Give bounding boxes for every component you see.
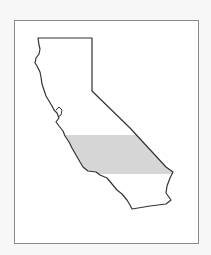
california-map: [0, 0, 211, 255]
bay-outline: [56, 107, 62, 117]
highlighted-region: [0, 135, 211, 174]
california-outline: [35, 38, 173, 209]
